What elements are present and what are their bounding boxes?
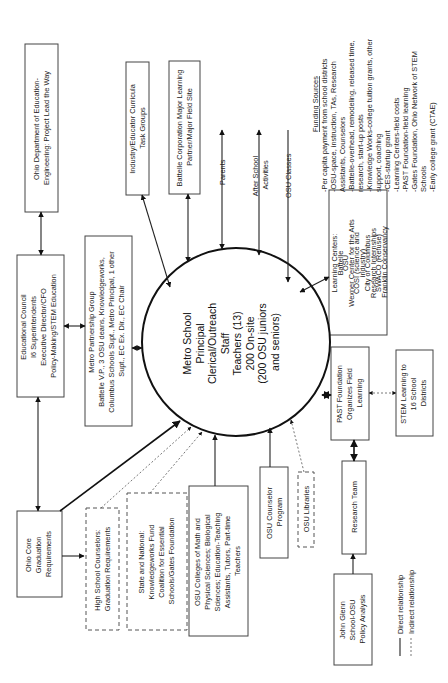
label-ohio-dept: Ohio Department of Education- Engineerin…	[32, 71, 51, 185]
funding-sources: Funding Sources -Per capita payment from…	[311, 37, 437, 192]
legend-indirect-label: Indirect relationship	[407, 570, 416, 634]
label-hs-counselors: High School Counselors: Graduation Requi…	[93, 526, 112, 611]
organization-diagram: Ohio Department of Education- Engineerin…	[0, 0, 448, 683]
label-osu-libraries: OSU Libraries	[302, 485, 311, 532]
link-osulibraries-center	[291, 420, 304, 472]
label-ohio-core: Ohio Core Graduation Requirements	[24, 531, 53, 577]
label-research-team: Research Team	[350, 481, 359, 533]
label-osu-classes: OSU Classes	[284, 153, 293, 198]
label-state-national: State and National: Knowledgeworks Fund …	[137, 517, 176, 604]
label-john-glenn: John Glenn School-OSU Policy Analysis	[338, 594, 367, 643]
link-statenational-center	[150, 432, 202, 493]
label-after-school: After School Activities	[251, 154, 270, 196]
label-parents: Parents	[218, 159, 227, 185]
link-industry-center	[142, 195, 170, 287]
legend-direct-label: Direct relationship	[396, 575, 405, 634]
